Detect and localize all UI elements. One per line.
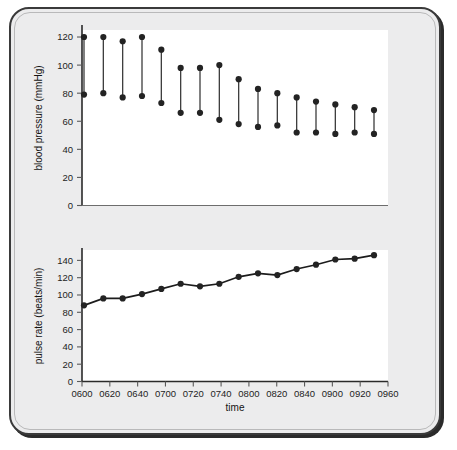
pulse-rate-point	[294, 266, 300, 272]
x-tick-label: 0920	[350, 388, 371, 399]
pulse-y-tick-label: 80	[62, 307, 73, 318]
pulse-rate-point	[178, 281, 184, 287]
x-tick-label: 0720	[183, 388, 204, 399]
pulse-rate-line	[84, 255, 374, 305]
pulse-rate-point	[313, 262, 319, 268]
pulse-rate-point	[100, 295, 106, 301]
pulse-rate-axis-title: pulse rate (beats/min)	[33, 268, 44, 365]
pulse-rate-point	[236, 274, 242, 280]
blood-pressure-axis-title: blood pressure (mmHg)	[33, 65, 44, 170]
bp-range-bar	[139, 34, 145, 99]
bp-range-bar	[274, 90, 280, 128]
pulse-y-tick-label: 60	[62, 324, 73, 335]
x-tick-label: 0840	[294, 388, 315, 399]
pulse-rate-point	[81, 302, 87, 308]
bp-y-tick-label: 40	[62, 144, 73, 155]
pulse-rate-point	[120, 295, 126, 301]
chart-svg: 020406080100120 020406080100120140 06000…	[0, 0, 457, 450]
bp-y-tick-label: 80	[62, 88, 73, 99]
bp-range-bar	[352, 104, 358, 135]
bp-range-bar	[158, 47, 164, 107]
bp-y-tick-label: 0	[68, 200, 73, 211]
bp-y-tick-label: 120	[57, 31, 73, 42]
pulse-y-tick-label: 40	[62, 341, 73, 352]
bp-range-bar	[100, 34, 106, 96]
x-tick-label: 0620	[99, 388, 120, 399]
bp-range-bar	[255, 86, 261, 130]
pulse-y-tick-label: 20	[62, 359, 73, 370]
x-tick-label: 0820	[266, 388, 287, 399]
blood-pressure-chart: 020406080100120	[57, 25, 388, 211]
x-tick-label: 0740	[211, 388, 232, 399]
x-tick-label: 0960	[377, 388, 398, 399]
bp-y-tick-label: 100	[57, 60, 73, 71]
pulse-rate-point	[274, 272, 280, 278]
bp-range-bar	[332, 101, 338, 137]
bp-range-bar	[178, 65, 184, 116]
x-tick-label: 0900	[322, 388, 343, 399]
bp-range-bar	[120, 38, 126, 100]
x-tick-label: 0800	[238, 388, 259, 399]
pulse-y-tick-label: 120	[57, 272, 73, 283]
bp-range-bar	[294, 94, 300, 135]
pulse-rate-point	[197, 283, 203, 289]
pulse-rate-chart: 020406080100120140	[57, 248, 388, 387]
bp-y-tick-label: 60	[62, 116, 73, 127]
bp-range-bar	[197, 65, 203, 116]
pulse-y-tick-label: 140	[57, 255, 73, 266]
bp-range-bar	[216, 62, 222, 123]
pulse-rate-point	[158, 286, 164, 292]
x-axis-title: time	[226, 402, 245, 413]
bp-range-bar	[313, 99, 319, 136]
pulse-rate-point	[255, 270, 261, 276]
bp-range-bar	[371, 107, 377, 137]
pulse-rate-point	[332, 256, 338, 262]
bp-range-bar	[236, 76, 242, 127]
pulse-y-tick-label: 100	[57, 289, 73, 300]
pulse-rate-point	[139, 291, 145, 297]
pulse-rate-point	[371, 252, 377, 258]
x-tick-label: 0600	[71, 388, 92, 399]
pulse-rate-point	[216, 281, 222, 287]
shared-x-axis: 0600062006400700072007400800082008400900…	[71, 382, 398, 400]
pulse-y-tick-label: 0	[68, 376, 73, 387]
pulse-rate-point	[352, 256, 358, 262]
x-tick-label: 0640	[127, 388, 148, 399]
bp-y-tick-label: 20	[62, 172, 73, 183]
figure-root: 020406080100120 020406080100120140 06000…	[0, 0, 457, 450]
x-tick-label: 0700	[155, 388, 176, 399]
